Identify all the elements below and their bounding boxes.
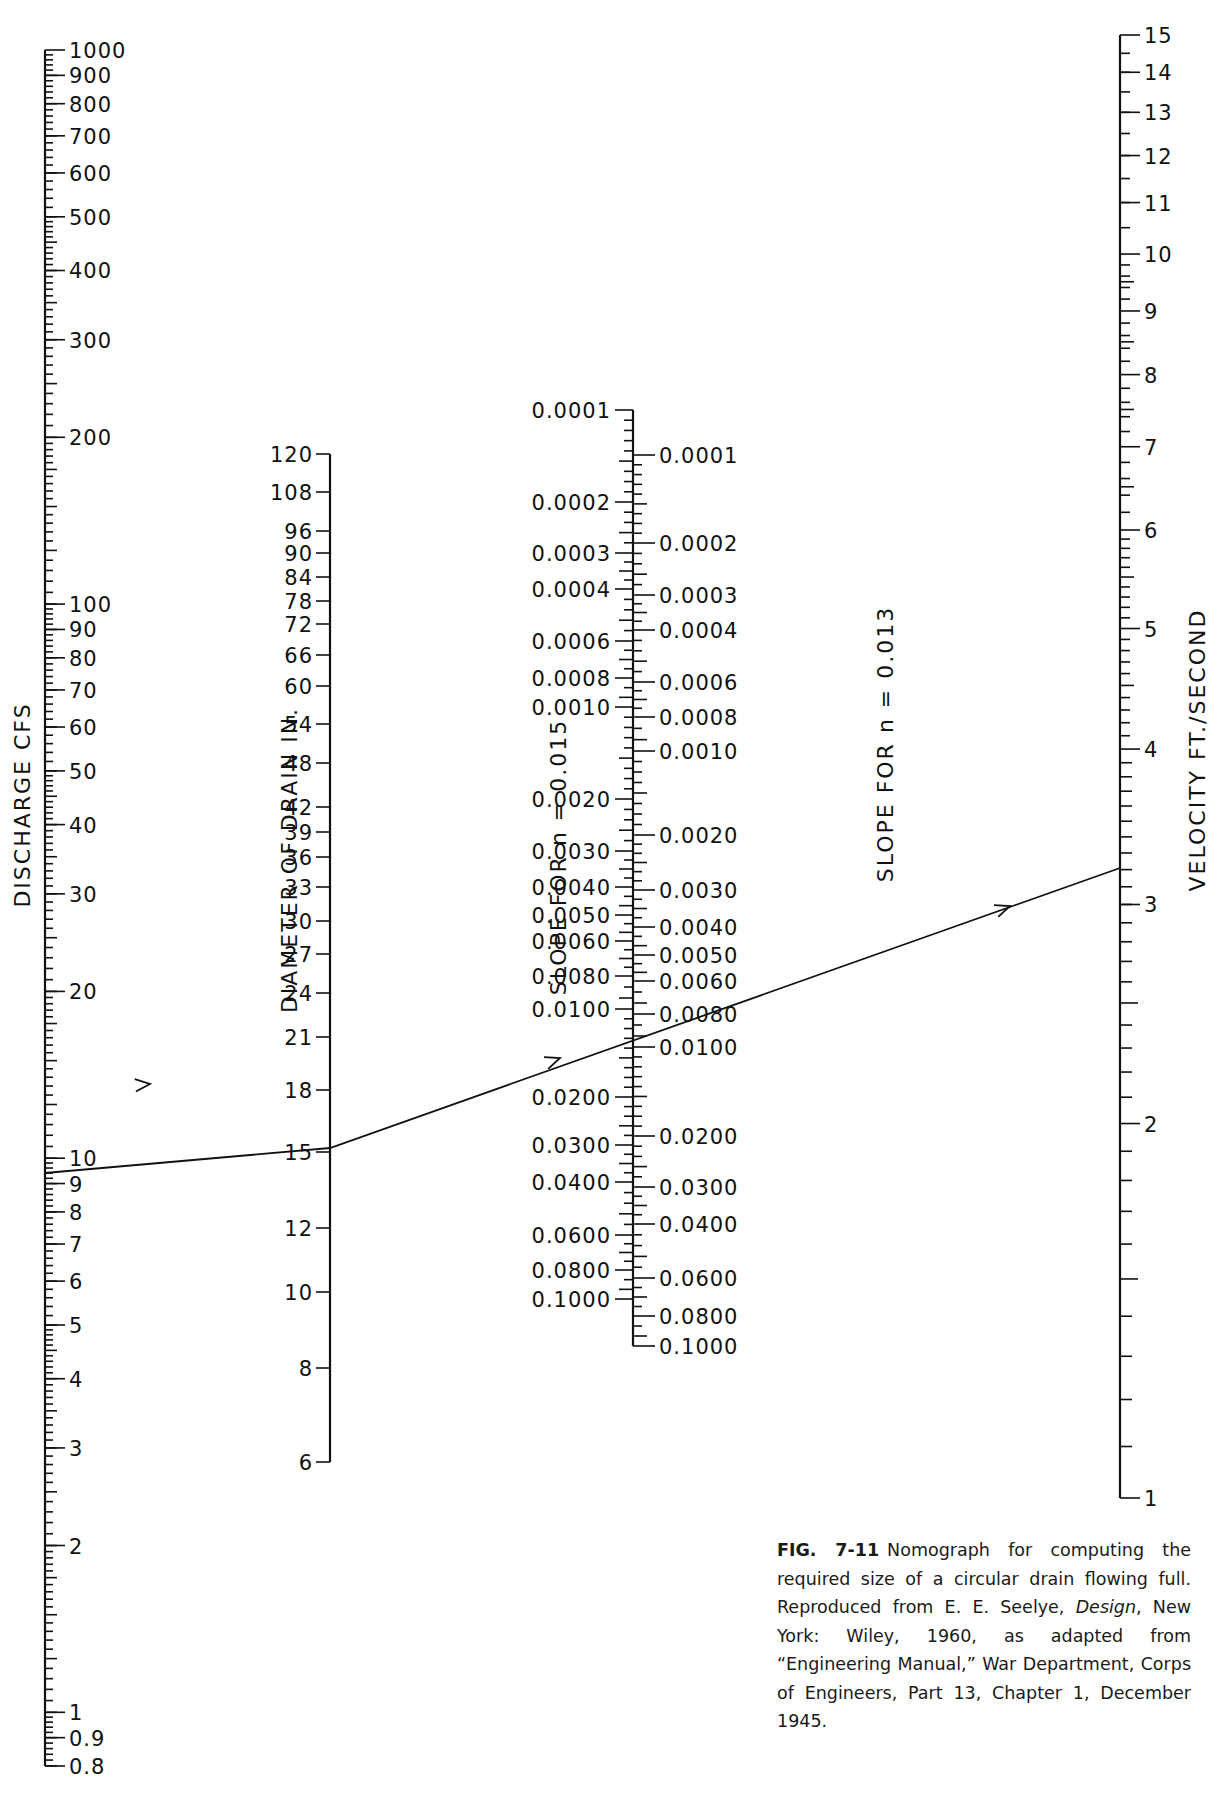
- tick-label: 84: [284, 566, 313, 590]
- tick-label: 120: [270, 443, 313, 467]
- tick-label: 72: [284, 613, 313, 637]
- tick-label-n015: 0.0006: [532, 630, 611, 654]
- tick-label: 10: [69, 1147, 98, 1171]
- tick-label: 60: [284, 675, 313, 699]
- tick-label-n015: 0.0003: [532, 542, 611, 566]
- tick-label: 0.8: [69, 1755, 105, 1779]
- tick-label-n013: 0.0400: [659, 1213, 738, 1237]
- tick-label-n015: 0.0040: [532, 876, 611, 900]
- tick-label: 6: [299, 1451, 313, 1475]
- tick-label: 20: [69, 980, 98, 1004]
- figure-label: FIG. 7-11: [777, 1540, 879, 1560]
- tick-label: 5: [1144, 618, 1158, 642]
- tick-label: 10: [284, 1281, 313, 1305]
- tick-label: 8: [299, 1357, 313, 1381]
- tick-label-n013: 0.0001: [659, 444, 738, 468]
- tick-label: 12: [284, 1217, 313, 1241]
- tick-label-n013: 0.0004: [659, 619, 738, 643]
- tick-label: 13: [1144, 101, 1173, 125]
- tick-label: 300: [69, 329, 112, 353]
- tick-label-n015: 0.1000: [532, 1288, 611, 1312]
- tick-label: 78: [284, 590, 313, 614]
- tick-label: 12: [1144, 145, 1173, 169]
- tick-label: 9: [1144, 300, 1158, 324]
- tick-label: 9: [69, 1173, 83, 1197]
- figure-caption: FIG. 7-11Nomograph for computing the req…: [777, 1536, 1191, 1736]
- tick-label-n015: 0.0002: [532, 491, 611, 515]
- tick-label: 1: [69, 1701, 83, 1725]
- tick-label: 30: [69, 883, 98, 907]
- tick-label-n015: 0.0001: [532, 399, 611, 423]
- tick-label-n015: 0.0400: [532, 1171, 611, 1195]
- tick-label: 21: [284, 1026, 313, 1050]
- tick-label-n013: 0.0200: [659, 1125, 738, 1149]
- tick-label-n013: 0.0010: [659, 740, 738, 764]
- tick-label: 66: [284, 644, 313, 668]
- tick-label: 4: [69, 1368, 83, 1392]
- slope_n015-axis-title: SLOPE FOR n = 0.015: [546, 719, 571, 996]
- discharge-scale: 1000900800700600500400300200100908070605…: [45, 39, 126, 1779]
- arrowhead-icon: [135, 1079, 150, 1091]
- tick-label: 96: [284, 520, 313, 544]
- tick-label: 90: [284, 542, 313, 566]
- tick-label: 15: [1144, 24, 1173, 48]
- tick-label: 108: [270, 481, 313, 505]
- tick-label-n015: 0.0050: [532, 904, 611, 928]
- tick-label: 50: [69, 760, 98, 784]
- tick-label: 10: [1144, 243, 1173, 267]
- tick-label: 500: [69, 206, 112, 230]
- tick-label: 7: [1144, 436, 1158, 460]
- discharge-axis-title: DISCHARGE CFS: [10, 702, 35, 907]
- tick-label: 600: [69, 162, 112, 186]
- tick-label: 15: [284, 1141, 313, 1165]
- tick-label-n013: 0.0100: [659, 1036, 738, 1060]
- tick-label-n013: 0.0300: [659, 1176, 738, 1200]
- tick-label-n015: 0.0200: [532, 1086, 611, 1110]
- tick-label-n013: 0.0020: [659, 824, 738, 848]
- tick-label-n013: 0.0002: [659, 532, 738, 556]
- tick-label: 40: [69, 814, 98, 838]
- tick-label: 200: [69, 426, 112, 450]
- tick-label-n015: 0.0060: [532, 930, 611, 954]
- tick-label: 90: [69, 618, 98, 642]
- tick-label-n015: 0.0030: [532, 840, 611, 864]
- tick-label: 5: [69, 1314, 83, 1338]
- tick-label-n015: 0.0004: [532, 578, 611, 602]
- tick-label: 11: [1144, 192, 1173, 216]
- tick-label-n015: 0.0020: [532, 788, 611, 812]
- caption-text-2: , New York: Wiley, 1960, as adapted from…: [777, 1597, 1191, 1731]
- tick-label: 60: [69, 716, 98, 740]
- velocity-axis-title: VELOCITY FT./SECOND: [1185, 609, 1210, 892]
- tick-label: 4: [1144, 738, 1158, 762]
- tick-label-n013: 0.1000: [659, 1335, 738, 1359]
- tick-label: 800: [69, 93, 112, 117]
- diameter-axis-title: DIAMETER OF DRAIN IN.: [277, 707, 302, 1013]
- tick-label: 8: [1144, 364, 1158, 388]
- tick-label-n013: 0.0060: [659, 970, 738, 994]
- tick-label-n013: 0.0006: [659, 671, 738, 695]
- tick-label: 7: [69, 1233, 83, 1257]
- tick-label-n013: 0.0003: [659, 584, 738, 608]
- tick-label: 400: [69, 259, 112, 283]
- tick-label: 14: [1144, 61, 1173, 85]
- tick-label-n015: 0.0100: [532, 998, 611, 1022]
- tick-label-n013: 0.0600: [659, 1267, 738, 1291]
- tick-label-n015: 0.0800: [532, 1259, 611, 1283]
- tick-label: 6: [1144, 519, 1158, 543]
- tick-label: 1: [1144, 1487, 1158, 1511]
- tick-label-n013: 0.0030: [659, 879, 738, 903]
- tick-label: 2: [69, 1535, 83, 1559]
- tick-label-n015: 0.0080: [532, 965, 611, 989]
- tick-label-n013: 0.0040: [659, 916, 738, 940]
- tick-label: 8: [69, 1201, 83, 1225]
- caption-book-title: Design: [1076, 1597, 1136, 1617]
- tick-label-n015: 0.0008: [532, 667, 611, 691]
- tick-label: 80: [69, 647, 98, 671]
- tick-label-n015: 0.0300: [532, 1134, 611, 1158]
- tick-label: 2: [1144, 1113, 1158, 1137]
- tick-label-n015: 0.0600: [532, 1224, 611, 1248]
- nomograph: 1000900800700600500400300200100908070605…: [0, 0, 1219, 1800]
- tick-label: 70: [69, 679, 98, 703]
- tick-label: 1000: [69, 39, 126, 63]
- tick-label-n013: 0.0050: [659, 944, 738, 968]
